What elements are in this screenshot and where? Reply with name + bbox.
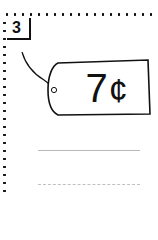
price-label: 7¢ [72,64,142,114]
price-amount: 7 [85,66,108,110]
answer-line-dashed [38,184,140,185]
answer-line-solid [38,150,140,151]
cent-sign: ¢ [109,71,129,109]
